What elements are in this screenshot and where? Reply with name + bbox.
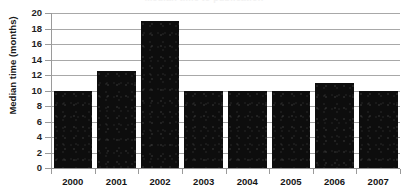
y-axis-title: Median time (months) xyxy=(7,1,18,131)
x-tick-mark xyxy=(313,169,314,174)
bars-group xyxy=(51,13,400,168)
y-tick-label: 4 xyxy=(22,132,42,142)
y-tick-label: 6 xyxy=(22,117,42,127)
bar xyxy=(315,83,354,168)
x-tick-mark xyxy=(356,169,357,174)
x-tick-mark xyxy=(95,169,96,174)
x-tick-label: 2002 xyxy=(138,177,182,187)
bar xyxy=(97,71,136,168)
x-tick-mark xyxy=(51,169,52,174)
y-tick-label: 10 xyxy=(22,86,42,96)
x-tick-mark xyxy=(226,169,227,174)
y-tick-label: 0 xyxy=(22,163,42,173)
x-tick-label: 2003 xyxy=(182,177,226,187)
x-tick-label: 2004 xyxy=(226,177,270,187)
x-tick-mark xyxy=(400,169,401,174)
x-tick-label: 2007 xyxy=(356,177,400,187)
bar xyxy=(228,91,267,169)
y-axis-tick-labels: 02468101214161820 xyxy=(20,0,42,196)
bar-chart-figure: Median time to publication Median time (… xyxy=(0,0,408,196)
x-tick-label: 2001 xyxy=(95,177,139,187)
x-tick-label: 2000 xyxy=(51,177,95,187)
y-tick-label: 20 xyxy=(22,8,42,18)
bar xyxy=(184,91,223,169)
y-tick-label: 12 xyxy=(22,70,42,80)
bar xyxy=(141,21,180,168)
y-tick-label: 16 xyxy=(22,39,42,49)
bar xyxy=(54,91,93,169)
x-tick-label: 2005 xyxy=(269,177,313,187)
x-tick-mark xyxy=(182,169,183,174)
x-axis-tick-labels: 20002001200220032004200520062007 xyxy=(51,177,400,191)
bar xyxy=(272,91,311,169)
y-tick-label: 2 xyxy=(22,148,42,158)
x-tick-mark xyxy=(269,169,270,174)
x-tick-label: 2006 xyxy=(313,177,357,187)
bar xyxy=(359,91,398,169)
y-tick-label: 18 xyxy=(22,24,42,34)
y-tick-label: 14 xyxy=(22,55,42,65)
x-tick-mark xyxy=(138,169,139,174)
chart-title: Median time to publication xyxy=(0,0,408,3)
y-tick-label: 8 xyxy=(22,101,42,111)
